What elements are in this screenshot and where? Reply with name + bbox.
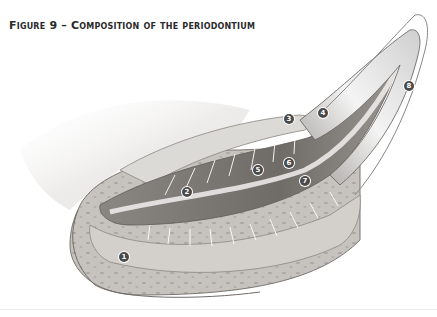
label-badge-2: 2: [182, 187, 192, 197]
label-badge-1: 1: [119, 252, 129, 262]
label-badge-4: 4: [318, 108, 328, 118]
label-badge-5: 5: [253, 165, 263, 175]
bottom-divider: [0, 309, 437, 310]
periodontium-illustration: [0, 0, 437, 317]
label-badge-8: 8: [404, 81, 414, 91]
label-badge-3: 3: [284, 114, 294, 124]
label-badge-6: 6: [284, 158, 294, 168]
label-badge-7: 7: [300, 176, 310, 186]
